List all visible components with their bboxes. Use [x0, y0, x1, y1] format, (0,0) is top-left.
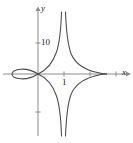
x-tick-label-1: 1 [62, 78, 67, 87]
curve-lower-inner-branch [38, 74, 62, 136]
plot-canvas [0, 0, 133, 143]
y-axis-arrowhead [35, 7, 40, 12]
y-tick-label-10: 10 [41, 38, 50, 47]
curve-lower-outer-branch [66, 74, 107, 136]
y-axis-label: y [41, 4, 45, 13]
curve-upper-outer-branch [66, 12, 107, 74]
graph-figure: y x 10 1 [0, 0, 133, 143]
x-axis-arrowhead [126, 71, 131, 76]
x-axis-label: x [122, 68, 126, 77]
ticks-group [36, 43, 117, 112]
